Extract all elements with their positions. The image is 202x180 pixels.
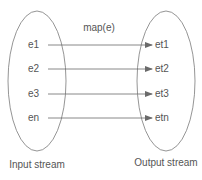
diagram-canvas: map(e) e1 e2 e3 en et1 et2 et3 etn Input… [0, 0, 202, 180]
output-element: et1 [155, 39, 169, 50]
map-diagram: map(e) e1 e2 e3 en et1 et2 et3 etn Input… [0, 0, 202, 180]
output-element: et3 [155, 88, 169, 99]
input-stream-ellipse [8, 11, 66, 151]
input-element: e3 [28, 88, 40, 99]
input-stream-caption: Input stream [9, 159, 65, 170]
function-label: map(e) [83, 22, 115, 33]
output-stream-ellipse [137, 11, 195, 151]
input-element: e2 [28, 63, 40, 74]
output-stream-caption: Output stream [134, 157, 197, 168]
input-element: en [28, 112, 39, 123]
input-element: e1 [28, 39, 40, 50]
output-element: et2 [155, 63, 169, 74]
output-element: etn [155, 112, 169, 123]
